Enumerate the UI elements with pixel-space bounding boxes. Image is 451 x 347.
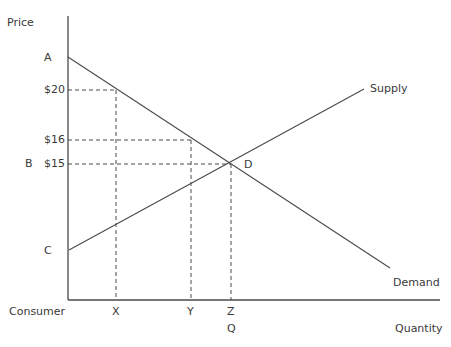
demand-label: Demand bbox=[393, 277, 440, 289]
y-axis-label: Price bbox=[7, 17, 34, 29]
quantity-label-q: Q bbox=[227, 323, 236, 335]
price-label-16: $16 bbox=[44, 134, 65, 146]
price-label-15: $15 bbox=[44, 158, 65, 170]
x-axis-label: Quantity bbox=[395, 323, 443, 335]
equilibrium-label: D bbox=[244, 159, 252, 171]
price-label-20: $20 bbox=[44, 84, 65, 96]
x-origin-label: Consumer bbox=[9, 306, 65, 318]
quantity-label-x: X bbox=[112, 306, 120, 318]
supply-label: Supply bbox=[370, 83, 408, 95]
price-label-a: A bbox=[44, 52, 52, 64]
quantity-label-y: Y bbox=[187, 306, 194, 318]
diagram-canvas bbox=[0, 0, 451, 347]
supply-curve bbox=[69, 89, 364, 250]
quantity-label-z: Z bbox=[227, 306, 235, 318]
price-label-c: C bbox=[44, 245, 52, 257]
price-label-b: B bbox=[25, 158, 33, 170]
